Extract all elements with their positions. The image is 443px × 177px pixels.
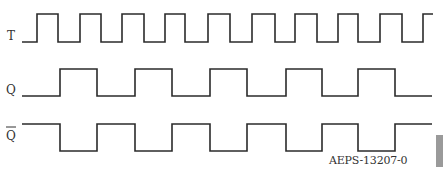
signal-label-q: Q (6, 83, 16, 97)
side-tab-marker (436, 135, 443, 167)
timing-diagram: T Q Q (0, 0, 443, 177)
waveform-q-bar (22, 124, 432, 151)
figure-id: AEPS-13207-0 (329, 154, 407, 167)
waveform-q (22, 69, 432, 96)
signal-label-q-bar: Q (6, 129, 16, 143)
signal-label-t: T (7, 29, 15, 43)
waveform-t (22, 14, 433, 42)
